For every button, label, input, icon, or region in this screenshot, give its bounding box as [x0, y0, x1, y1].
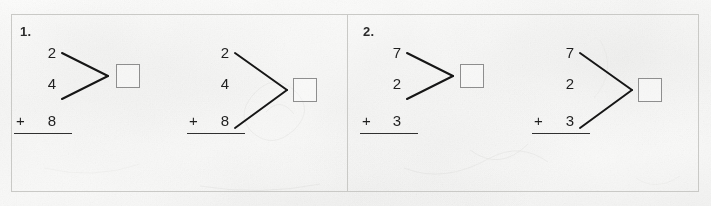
- problem-number-1: 1.: [20, 24, 31, 39]
- sum-rule-line: [14, 133, 72, 134]
- problem-number-2: 2.: [363, 24, 374, 39]
- addend-middle: 2: [563, 76, 577, 91]
- addend-bottom: 8: [218, 113, 232, 128]
- addend-top: 7: [563, 45, 577, 60]
- number-bond-bracket-short: [58, 44, 114, 108]
- addend-middle: 4: [218, 76, 232, 91]
- plus-operator: +: [362, 113, 371, 128]
- plus-operator: +: [16, 113, 25, 128]
- number-bond-bracket-tall: [576, 44, 638, 136]
- addend-middle: 2: [390, 76, 404, 91]
- answer-box[interactable]: [638, 78, 662, 102]
- addend-bottom: 3: [390, 113, 404, 128]
- plus-operator: +: [534, 113, 543, 128]
- addend-top: 7: [390, 45, 404, 60]
- addend-bottom: 3: [563, 113, 577, 128]
- panel-divider: [347, 14, 348, 192]
- addend-middle: 4: [45, 76, 59, 91]
- number-bond-bracket-tall: [231, 44, 293, 136]
- number-bond-bracket-short: [403, 44, 459, 108]
- answer-box[interactable]: [293, 78, 317, 102]
- addend-bottom: 8: [45, 113, 59, 128]
- answer-box[interactable]: [460, 64, 484, 88]
- addend-top: 2: [218, 45, 232, 60]
- sum-rule-line: [360, 133, 418, 134]
- answer-box[interactable]: [116, 64, 140, 88]
- plus-operator: +: [189, 113, 198, 128]
- addend-top: 2: [45, 45, 59, 60]
